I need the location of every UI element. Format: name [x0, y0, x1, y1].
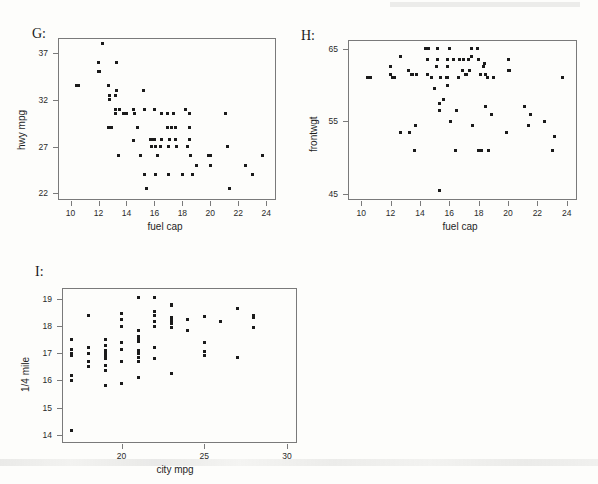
x-tick-mark — [567, 201, 568, 206]
data-point — [120, 348, 123, 351]
data-point — [108, 98, 111, 101]
data-point — [203, 350, 206, 353]
data-point — [120, 312, 123, 315]
data-point — [154, 173, 157, 176]
data-point — [167, 173, 170, 176]
x-tick-label: 14 — [112, 208, 140, 218]
data-point — [389, 65, 392, 68]
data-point — [137, 356, 140, 359]
data-point — [477, 58, 480, 61]
x-tick-mark — [182, 201, 183, 206]
x-tick-label: 18 — [168, 208, 196, 218]
data-point — [167, 145, 170, 148]
data-point — [523, 105, 526, 108]
data-point — [252, 316, 255, 319]
data-point — [153, 296, 156, 299]
data-point — [457, 76, 460, 79]
panel-label-h: H: — [301, 28, 315, 44]
data-point — [454, 149, 457, 152]
x-tick-label: 20 — [196, 208, 224, 218]
x-axis-title-g: fuel cap — [105, 221, 225, 232]
x-tick-mark — [122, 444, 123, 449]
data-point — [110, 126, 113, 129]
data-point — [508, 69, 511, 72]
x-tick-mark — [210, 201, 211, 206]
data-point — [470, 55, 473, 58]
data-point — [104, 364, 107, 367]
data-point — [244, 164, 247, 167]
data-point — [153, 108, 156, 111]
data-point — [166, 112, 169, 115]
data-point — [476, 47, 479, 50]
data-point — [389, 73, 392, 76]
y-tick-mark — [343, 121, 348, 122]
panel-label-g: G: — [32, 26, 46, 42]
data-point — [143, 173, 146, 176]
data-point — [435, 65, 438, 68]
data-point — [553, 135, 556, 138]
x-tick-label: 18 — [465, 208, 493, 218]
data-point — [87, 352, 90, 355]
data-point — [551, 149, 554, 152]
data-point — [175, 145, 178, 148]
data-point — [137, 360, 140, 363]
data-point — [153, 310, 156, 313]
data-point — [160, 112, 163, 115]
data-point — [471, 124, 474, 127]
x-tick-label: 12 — [377, 208, 405, 218]
x-tick-mark — [71, 201, 72, 206]
data-point — [479, 73, 482, 76]
data-point — [449, 120, 452, 123]
x-tick-mark — [238, 201, 239, 206]
data-point — [166, 126, 169, 129]
data-point — [507, 58, 510, 61]
data-point — [439, 76, 442, 79]
data-point — [487, 149, 490, 152]
y-tick-label: 27 — [22, 142, 48, 152]
data-point — [446, 65, 449, 68]
data-point — [236, 307, 239, 310]
data-point — [104, 357, 107, 360]
data-point — [139, 154, 142, 157]
data-point — [137, 340, 140, 343]
data-point — [120, 325, 123, 328]
data-point — [224, 112, 227, 115]
data-point — [70, 348, 73, 351]
data-point — [426, 73, 429, 76]
y-tick-label: 14 — [26, 430, 52, 440]
data-point — [114, 108, 117, 111]
data-point — [104, 338, 107, 341]
data-point — [436, 47, 439, 50]
x-tick-mark — [287, 444, 288, 449]
data-point — [411, 73, 414, 76]
panel-label-i: I: — [35, 264, 44, 280]
x-tick-mark — [537, 201, 538, 206]
data-point — [407, 69, 410, 72]
data-point — [114, 94, 117, 97]
y-tick-label: 32 — [22, 95, 48, 105]
data-point — [484, 73, 487, 76]
data-point — [483, 62, 486, 65]
x-tick-mark — [126, 201, 127, 206]
x-tick-mark — [420, 201, 421, 206]
data-point — [77, 84, 80, 87]
data-point — [393, 76, 396, 79]
data-point — [369, 76, 372, 79]
data-point — [108, 94, 111, 97]
data-point — [436, 58, 439, 61]
data-point — [153, 346, 156, 349]
data-point — [442, 98, 445, 101]
data-point — [468, 69, 471, 72]
data-point — [150, 145, 153, 148]
data-point — [104, 384, 107, 387]
x-tick-mark — [508, 201, 509, 206]
data-point — [462, 58, 465, 61]
x-tick-label: 22 — [224, 208, 252, 218]
data-point — [209, 154, 212, 157]
data-point — [137, 329, 140, 332]
data-point — [87, 314, 90, 317]
data-point — [505, 131, 508, 134]
data-point — [426, 58, 429, 61]
data-point — [142, 89, 145, 92]
data-point — [486, 76, 489, 79]
